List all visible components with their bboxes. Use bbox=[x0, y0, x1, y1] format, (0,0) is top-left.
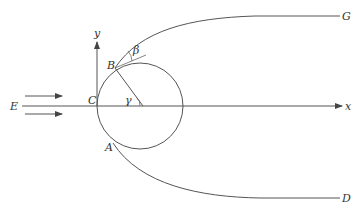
label-beta: β bbox=[132, 44, 139, 57]
gamma-angle-arc bbox=[137, 98, 141, 107]
label-G: G bbox=[342, 10, 351, 23]
label-B: B bbox=[106, 59, 115, 72]
upper-streamline-B-to-G bbox=[115, 16, 340, 68]
lower-streamline-A-to-D bbox=[113, 143, 340, 198]
y-axis-label: y bbox=[93, 27, 101, 40]
label-D: D bbox=[341, 192, 351, 205]
label-E: E bbox=[9, 100, 18, 113]
flow-around-cylinder-diagram: x y E γ β C B A G D bbox=[0, 0, 364, 213]
label-gamma: γ bbox=[125, 94, 132, 107]
x-axis-label: x bbox=[345, 100, 352, 113]
label-C: C bbox=[88, 94, 97, 107]
label-A: A bbox=[104, 141, 113, 154]
